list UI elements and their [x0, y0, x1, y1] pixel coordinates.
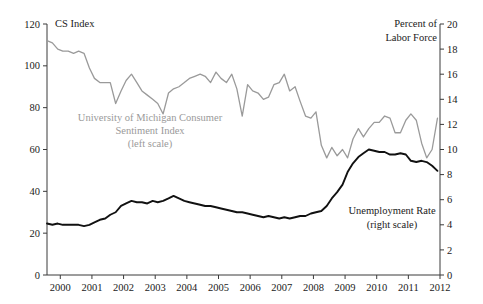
left-axis-tick-label: 40: [30, 186, 41, 197]
x-axis-tick-label: 2002: [113, 282, 134, 293]
right-axis-tick-label: 10: [447, 144, 458, 155]
right-axis-tick-label: 12: [447, 119, 458, 130]
percent-labor-force-line2: Labor Force: [385, 32, 437, 43]
right-axis-tick-label: 20: [447, 19, 458, 30]
right-axis-tick-label: 4: [447, 219, 453, 230]
x-axis-tick-label: 2000: [50, 282, 71, 293]
left-axis-tick-label: 100: [24, 60, 40, 71]
right-axis-tick-label: 6: [447, 194, 452, 205]
left-axis-tick-label: 20: [30, 228, 41, 239]
x-axis-tick-label: 2004: [176, 282, 198, 293]
x-axis-tick-label: 2011: [398, 282, 419, 293]
umich-annotation-line1: University of Michigan Consumer: [78, 112, 223, 123]
right-axis-tick-label: 16: [447, 69, 458, 80]
cs-index-axis-title: CS Index: [55, 18, 95, 29]
left-axis-tick-label: 0: [35, 270, 40, 281]
chart-container: 020406080100120 02468101214161820 200020…: [0, 0, 483, 304]
x-axis-tick-label: 2005: [208, 282, 229, 293]
x-axis-tick-label: 2001: [81, 282, 102, 293]
percent-labor-force-line1: Percent of: [394, 18, 437, 29]
unemployment-annotation-line1: Unemployment Rate: [348, 205, 436, 216]
x-axis-tick-label: 2009: [335, 282, 356, 293]
right-axis-tick-label: 0: [447, 270, 452, 281]
chart-background: [0, 0, 483, 304]
left-axis-tick-label: 80: [30, 102, 41, 113]
x-axis-tick-label: 2003: [145, 282, 166, 293]
right-axis-tick-label: 8: [447, 169, 452, 180]
x-axis-tick-label: 2012: [430, 282, 451, 293]
right-axis-tick-label: 18: [447, 44, 458, 55]
left-axis-tick-label: 120: [24, 19, 40, 30]
x-axis-tick-label: 2010: [366, 282, 387, 293]
right-axis-tick-label: 2: [447, 245, 452, 256]
right-axis-tick-label: 14: [447, 94, 458, 105]
unemployment-annotation-line2: (right scale): [367, 219, 418, 231]
x-axis-tick-label: 2006: [240, 282, 261, 293]
umich-annotation-line2: Sentiment Index: [115, 125, 185, 136]
x-axis-tick-label: 2008: [303, 282, 324, 293]
x-axis-tick-label: 2007: [271, 282, 292, 293]
left-axis-tick-label: 60: [30, 144, 41, 155]
umich-annotation-line3: (left scale): [128, 138, 173, 150]
chart-svg: 020406080100120 02468101214161820 200020…: [0, 0, 483, 304]
